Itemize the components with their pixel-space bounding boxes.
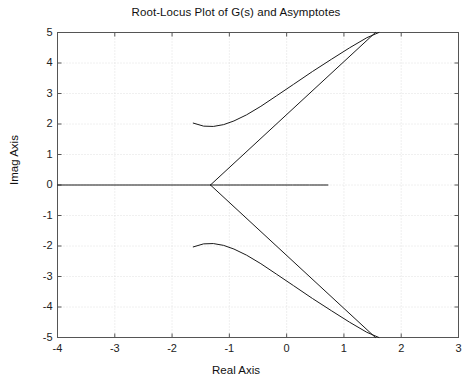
y-tick-label: -2 (27, 239, 53, 251)
x-tick-label: 1 (329, 342, 359, 354)
x-tick-label: -2 (157, 342, 187, 354)
y-tick-label: -5 (27, 331, 53, 343)
y-tick-label: 1 (27, 148, 53, 160)
y-tick-label: -3 (27, 270, 53, 282)
y-tick-label: 0 (27, 178, 53, 190)
x-tick-label: 3 (444, 342, 472, 354)
y-tick-label: -4 (27, 300, 53, 312)
x-tick-label: 2 (386, 342, 416, 354)
y-tick-label: -1 (27, 209, 53, 221)
x-tick-label: -3 (100, 342, 130, 354)
x-tick-label: -1 (214, 342, 244, 354)
y-tick-label: 3 (27, 87, 53, 99)
y-tick-label: 5 (27, 26, 53, 38)
y-tick-label: 4 (27, 56, 53, 68)
y-tick-label: 2 (27, 117, 53, 129)
x-tick-label: -4 (43, 342, 73, 354)
root-locus-figure: Root-Locus Plot of G(s) and Asymptotes I… (0, 0, 472, 387)
x-tick-label: 0 (272, 342, 302, 354)
plot-canvas (0, 0, 472, 387)
